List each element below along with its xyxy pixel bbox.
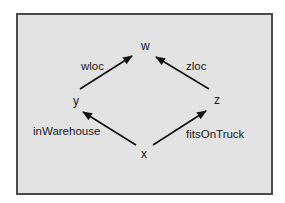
edge-y-to-w: wloc: [80, 56, 132, 89]
edge-label-fitsontruck: fitsOnTruck: [186, 128, 245, 140]
edge-label-zloc: zloc: [186, 60, 207, 72]
edge-x-to-z: fitsOnTruck: [153, 111, 245, 145]
edge-label-wloc: wloc: [80, 60, 104, 72]
commutative-diagram: wloc zloc inWarehouse fitsOnTruck w y z …: [0, 0, 285, 203]
node-w: w: [140, 39, 150, 53]
node-y: y: [73, 94, 79, 108]
node-z: z: [214, 93, 220, 107]
edge-label-inwarehouse: inWarehouse: [33, 125, 100, 137]
edge-z-to-w: zloc: [156, 57, 209, 89]
edge-x-to-y: inWarehouse: [33, 112, 136, 145]
node-x: x: [141, 147, 147, 161]
